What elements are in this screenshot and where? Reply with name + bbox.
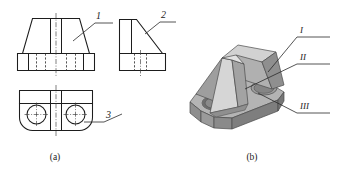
label-I: I <box>299 25 304 35</box>
figure-canvas: 1 2 3 (a) <box>0 0 349 172</box>
label-III: III <box>299 101 310 111</box>
isometric-model-group: I II III (b) <box>190 25 330 163</box>
front-view <box>18 13 95 76</box>
side-view-profile-outline <box>120 20 163 54</box>
base-plate-front-right-face <box>214 117 232 129</box>
side-view-base-outline <box>120 54 166 71</box>
left-side-view <box>120 20 166 77</box>
label-1: 1 <box>96 10 101 21</box>
orthographic-projection-group: 1 2 3 (a) <box>18 9 177 163</box>
engineering-figure: 1 2 3 (a) <box>0 0 349 172</box>
caption-a: (a) <box>50 152 61 163</box>
leader-line-2 <box>145 22 176 34</box>
label-2: 2 <box>161 9 166 20</box>
caption-b: (b) <box>246 152 257 163</box>
label-3: 3 <box>105 109 111 120</box>
leader-line-1 <box>73 23 113 41</box>
top-view <box>20 85 93 137</box>
label-II: II <box>299 52 307 62</box>
